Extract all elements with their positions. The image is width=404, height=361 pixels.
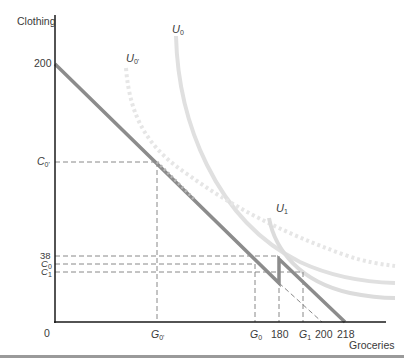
y-axis-label: Clothing (17, 16, 56, 27)
x-tick-g0-prime: G0' (151, 329, 164, 341)
y-tick-c0-prime: C0' (37, 156, 50, 168)
x-tick-g0: G0 (250, 329, 262, 341)
u-symbol: U (276, 202, 284, 214)
c-symbol: C (41, 266, 48, 277)
u-subscript: 1 (284, 208, 288, 215)
x-tick-180: 180 (271, 329, 289, 340)
c-subscript: 1 (48, 271, 52, 278)
indifference-curve-u1 (269, 218, 395, 298)
y-tick-c1: C1 (41, 267, 52, 278)
u-subscript: 0 (180, 29, 184, 36)
indifference-curve-u0 (176, 36, 395, 283)
curve-label-u1: U1 (276, 203, 288, 215)
budget-line (55, 64, 345, 322)
x-tick-218: 218 (337, 329, 355, 340)
origin-label: 0 (44, 328, 50, 339)
g-symbol: G (299, 328, 307, 340)
g-subscript: 0' (159, 334, 164, 341)
g-symbol: G (151, 328, 159, 340)
y-tick-200: 200 (34, 58, 52, 69)
indifference-curve-diagram: Clothing Groceries 0 200 C0' 38 C0 C1 G0… (0, 0, 404, 361)
g-subscript: 0 (258, 334, 262, 341)
x-axis-label: Groceries (349, 340, 395, 351)
guide-lines (55, 162, 322, 322)
u-symbol: U (172, 23, 180, 35)
x-tick-200: 200 (315, 329, 333, 340)
c-subscript: 0' (45, 161, 50, 168)
u-symbol: U (126, 52, 134, 64)
diagram-canvas (0, 0, 404, 361)
bottom-divider (0, 355, 404, 358)
curve-label-u0: U0 (172, 24, 184, 36)
g-subscript: 1 (307, 334, 311, 341)
u-subscript: 0' (134, 58, 139, 65)
g-symbol: G (250, 328, 258, 340)
x-tick-g1: G1 (299, 329, 311, 341)
c-symbol: C (37, 155, 45, 167)
curve-label-u0-prime: U0' (126, 53, 139, 65)
